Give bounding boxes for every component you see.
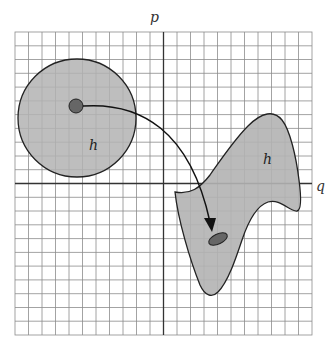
phase-space-diagram xyxy=(0,0,333,346)
start-point xyxy=(69,99,83,113)
evolved-region-label: h xyxy=(263,151,272,167)
initial-region-label: h xyxy=(89,137,98,153)
p-axis-label: p xyxy=(150,9,159,25)
initial-region xyxy=(18,59,136,177)
evolved-region-fill xyxy=(175,114,301,296)
q-axis-label: q xyxy=(316,178,325,194)
